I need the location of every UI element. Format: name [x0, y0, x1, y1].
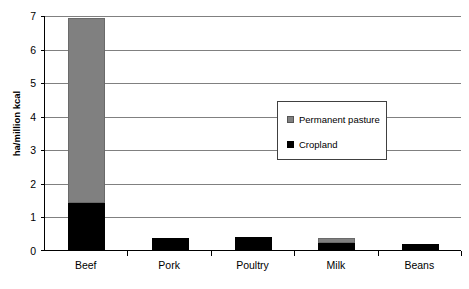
- x-tick-label-beans: Beans: [404, 259, 434, 271]
- bar-poultry: [235, 237, 272, 250]
- chart-legend: Permanent pasture Cropland: [277, 101, 387, 160]
- x-tick-mark: [294, 251, 295, 256]
- bar-segment-cropland: [68, 203, 105, 250]
- x-tick-label-milk: Milk: [327, 259, 346, 271]
- x-tick-label-pork: Pork: [158, 259, 180, 271]
- legend-label: Cropland: [299, 140, 338, 150]
- plot-area: [44, 16, 461, 251]
- y-tick-label: 0: [30, 246, 36, 257]
- x-tick-mark: [378, 251, 379, 256]
- legend-item-cropland: Cropland: [287, 140, 338, 150]
- bar-beans: [402, 244, 439, 250]
- x-tick-mark: [127, 251, 128, 256]
- bars-layer: [45, 16, 461, 250]
- bar-segment-cropland: [402, 244, 439, 250]
- bar-pork: [152, 238, 189, 250]
- y-tick-label: 5: [30, 78, 36, 89]
- x-tick-label-beef: Beef: [75, 259, 97, 271]
- x-tick-mark: [461, 251, 462, 256]
- x-axis-tick-labels: Beef Pork Poultry Milk Beans: [44, 259, 461, 277]
- legend-item-permanent-pasture: Permanent pasture: [287, 115, 380, 125]
- bar-beef: [68, 18, 105, 250]
- bar-segment-cropland: [318, 243, 355, 250]
- x-tick-label-poultry: Poultry: [236, 259, 269, 271]
- legend-label: Permanent pasture: [299, 115, 380, 125]
- bar-segment-cropland: [235, 237, 272, 250]
- y-tick-label: 2: [30, 179, 36, 190]
- y-axis-tick-labels: 7 6 5 4 3 2 1 0: [0, 0, 44, 289]
- y-tick-label: 1: [30, 212, 36, 223]
- y-tick-label: 4: [30, 111, 36, 122]
- legend-swatch-icon-pasture: [287, 116, 294, 123]
- bar-segment-cropland: [152, 238, 189, 250]
- legend-swatch-icon-cropland: [287, 141, 294, 148]
- x-tick-mark: [211, 251, 212, 256]
- y-tick-label: 7: [30, 11, 36, 22]
- y-tick-label: 6: [30, 44, 36, 55]
- y-tick-label: 3: [30, 145, 36, 156]
- x-axis-ticks: [44, 251, 461, 257]
- bar-segment-permanent-pasture: [318, 238, 355, 243]
- stacked-bar-chart: ha/million kcal 7 6 5 4 3 2 1 0: [0, 0, 469, 289]
- bar-milk: [318, 238, 355, 250]
- bar-segment-permanent-pasture: [68, 18, 105, 203]
